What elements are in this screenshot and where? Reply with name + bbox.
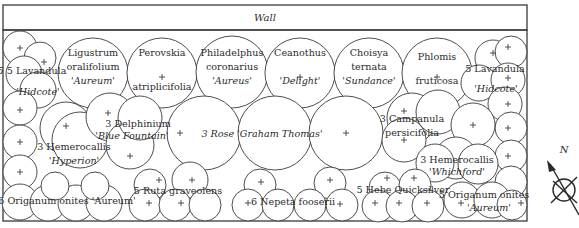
- label-lavandula-right: 5 Lavandula: [465, 63, 525, 74]
- north-compass-icon: N: [547, 144, 579, 215]
- label-origanum-left: 6 Origanum onites 'Aureum': [0, 195, 136, 206]
- label-perovskia-2: atriplicifolia: [132, 81, 191, 92]
- planting-plan: Wall: [0, 0, 579, 228]
- label-hemerocallis-whichford-1: 3 Hemerocallis: [420, 154, 494, 165]
- compass-north-label: N: [559, 144, 570, 155]
- label-philadelphus-1: Philadelphus: [201, 47, 264, 58]
- label-hebe: 5 Hebe Quicksilver: [356, 184, 450, 195]
- label-ceanothus-1: Ceanothus: [274, 47, 326, 58]
- label-delphinium-1: 3 Delphinium: [105, 118, 171, 129]
- label-hemerocallis-hyperion-1: 3 Hemerocallis: [37, 141, 111, 152]
- label-choisya-3: 'Sundance': [342, 75, 395, 86]
- label-philadelphus-2: coronarius: [206, 61, 258, 72]
- label-ceanothus-2: 'Delight': [280, 75, 321, 86]
- label-lavandula-left-cultivar: 'Hidcote': [16, 86, 60, 97]
- label-hemerocallis-whichford-2: 'Whichford': [429, 166, 485, 177]
- label-phlomis-2: fruticosa: [415, 75, 458, 86]
- label-ligustrum-1: Ligustrum: [68, 47, 118, 58]
- label-campanula-2: persicifolia: [385, 127, 439, 138]
- label-lavandula-left: 5 5 Lavandula: [0, 65, 67, 76]
- label-ligustrum-2: oralifolium: [67, 61, 120, 72]
- label-philadelphus-3: 'Aureus': [212, 75, 252, 86]
- label-phlomis-1: Phlomis: [418, 51, 457, 62]
- label-choisya-1: Choisya: [350, 47, 389, 58]
- label-rose: 3 Rose 'Graham Thomas': [201, 128, 322, 139]
- label-ruta: 5 Ruta graveolens: [134, 185, 222, 196]
- label-origanum-right-1: 5 Origanum onites: [439, 189, 530, 200]
- label-hemerocallis-hyperion-2: 'Hyperion': [49, 155, 100, 166]
- label-origanum-right-2: 'Aureum': [467, 202, 511, 213]
- label-campanula-1: 3 Campanula: [380, 113, 445, 124]
- label-lavandula-right-cultivar: 'Hidcote': [474, 83, 518, 94]
- label-ligustrum-3: 'Aureum': [71, 75, 115, 86]
- label-perovskia-1: Perovskia: [138, 47, 185, 58]
- label-nepeta: 6 Nepeta fooserii: [251, 196, 335, 207]
- wall-label: Wall: [254, 12, 276, 23]
- label-delphinium-2: 'Blue Fountain': [95, 130, 168, 141]
- label-choisya-2: ternata: [351, 61, 387, 72]
